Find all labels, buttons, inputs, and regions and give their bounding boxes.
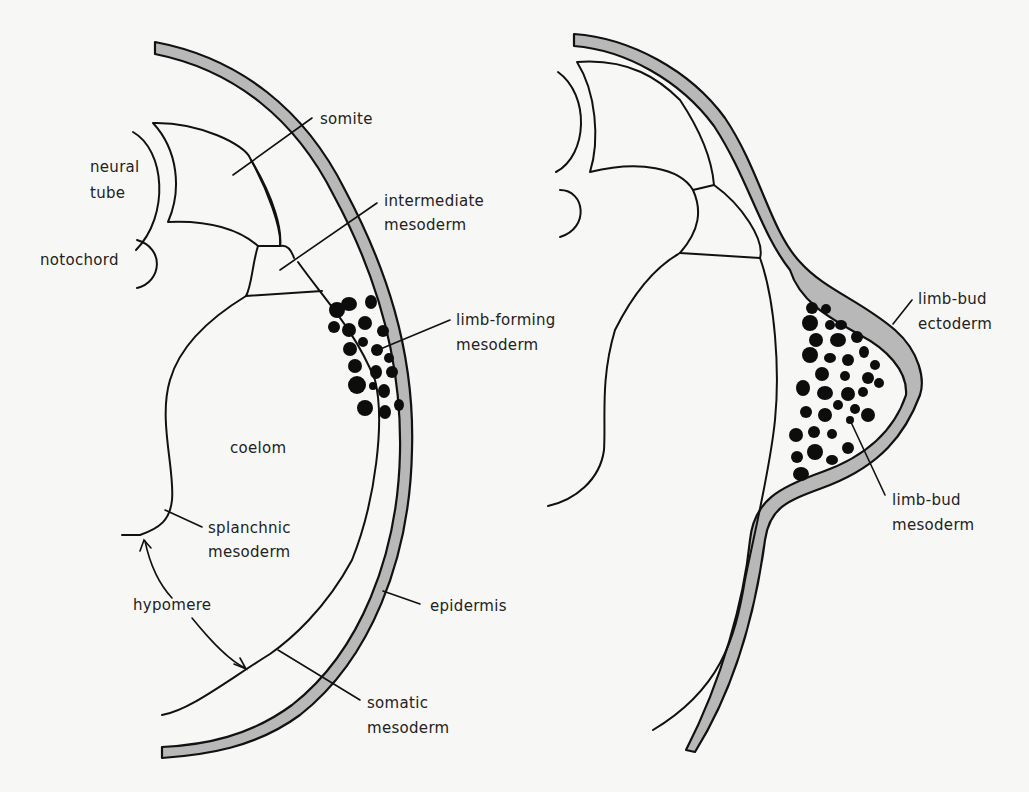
- somatic-boundary-2: [653, 258, 777, 730]
- label-epidermis: epidermis: [430, 597, 507, 615]
- label-intermediate-2: mesoderm: [384, 216, 467, 234]
- somite-outline-2: [577, 62, 714, 190]
- label-coelom: coelom: [230, 439, 286, 457]
- leader-splanchnic: [165, 510, 202, 527]
- leader-epidermis: [383, 591, 420, 604]
- label-hypomere: hypomere: [133, 596, 211, 614]
- somite-outline: [153, 123, 280, 246]
- label-somatic-2: mesoderm: [367, 719, 450, 737]
- label-intermediate: intermediate: [384, 192, 484, 210]
- label-limb-bud-ectoderm-2: ectoderm: [918, 315, 992, 333]
- label-limb-bud-mesoderm-2: mesoderm: [892, 516, 975, 534]
- label-neural-tube-2: tube: [90, 184, 125, 202]
- intermediate-mesoderm-outline: [246, 246, 322, 296]
- embryo-limb-diagram: somite neural tube notochord intermediat…: [0, 0, 1029, 792]
- label-somite: somite: [320, 110, 373, 128]
- left-panel: somite neural tube notochord intermediat…: [40, 42, 556, 758]
- label-splanchnic: splanchnic: [208, 519, 291, 537]
- label-somatic: somatic: [367, 694, 428, 712]
- neural-tube-outline-2: [556, 72, 581, 172]
- leader-somite: [233, 118, 312, 175]
- limb-bud-ectoderm-band: [574, 34, 922, 752]
- label-limb-bud-mesoderm: limb-bud: [892, 491, 961, 509]
- leader-limb-bud-ectoderm: [893, 300, 912, 324]
- right-panel: limb-bud ectoderm limb-bud mesoderm: [548, 34, 992, 752]
- somite-inner: [251, 160, 280, 246]
- label-limb-forming-2: mesoderm: [456, 336, 539, 354]
- label-notochord: notochord: [40, 251, 119, 269]
- notochord-outline: [137, 240, 157, 288]
- label-limb-forming: limb-forming: [456, 311, 556, 329]
- label-splanchnic-2: mesoderm: [208, 543, 291, 561]
- neural-tube-outline: [133, 132, 159, 250]
- splanchnic-boundary: [122, 296, 246, 535]
- notochord-outline-2: [560, 190, 581, 237]
- label-limb-bud-ectoderm: limb-bud: [918, 290, 987, 308]
- splanchnic-boundary-2: [548, 253, 680, 506]
- label-neural-tube: neural: [90, 158, 140, 176]
- epidermis-band: [155, 42, 412, 758]
- sclerotome-outline-2: [680, 185, 761, 258]
